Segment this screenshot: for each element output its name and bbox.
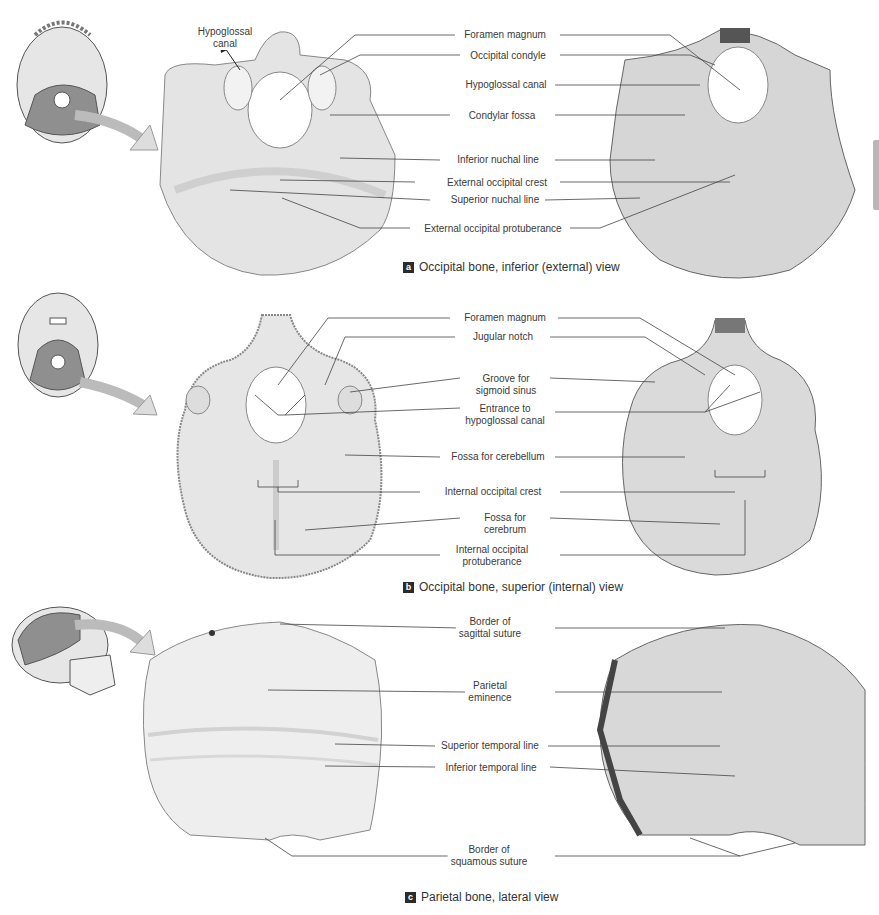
arrow-icon [80,382,148,408]
label-inferior-temporal-line: Inferior temporal line [442,762,539,774]
label-superior-temporal-line: Superior temporal line [438,740,542,752]
label-internal-occipital-crest: Internal occipital crest [442,486,545,498]
panel-b-occipital-superior: Foramen magnum Jugular notch Groove fors… [0,290,879,600]
panel-a-artwork [0,0,879,290]
panel-c-artwork [0,600,879,915]
caption-b: bOccipital bone, superior (internal) vie… [403,580,623,594]
label-foramen-magnum-b: Foramen magnum [461,312,549,324]
label-condylar-fossa: Condylar fossa [466,110,539,122]
label-occipital-condyle: Occipital condyle [467,50,549,62]
label-superior-nuchal-line: Superior nuchal line [448,194,542,206]
panel-c-parietal-lateral: Border ofsagittal suture Parietaleminenc… [0,600,879,915]
label-border-squamous-suture: Border ofsquamous suture [448,844,531,868]
occipital-inferior-illustration [160,32,395,275]
label-groove-sigmoid-sinus: Groove forsigmoid sinus [473,373,540,397]
label-border-sagittal-suture: Border ofsagittal suture [456,616,524,640]
label-entrance-hypoglossal-canal: Entrance tohypoglossal canal [462,403,548,427]
page-edge-tab [873,140,879,210]
caption-marker-b: b [403,582,414,593]
label-inferior-nuchal-line: Inferior nuchal line [454,154,542,166]
label-fossa-cerebrum: Fossa forcerebrum [481,512,529,536]
panel-a-occipital-inferior: Hypoglossalcanal Foramen magnum Occipita… [0,0,879,290]
occipital-inferior-photo [610,28,855,278]
label-hypoglossal-canal: Hypoglossal canal [462,79,549,91]
skull-inferior-thumbnail [17,23,107,144]
caption-a: aOccipital bone, inferior (external) vie… [403,260,620,274]
panel-b-artwork [0,290,879,600]
occipital-superior-photo [623,318,822,575]
label-fossa-cerebellum: Fossa for cerebellum [448,451,547,463]
label-internal-occipital-protuberance: Internal occipitalprotuberance [453,544,531,568]
label-parietal-eminence: Parietaleminence [465,680,514,704]
caption-marker-a: a [403,262,414,273]
occipital-superior-illustration [178,315,382,578]
parietal-photo [600,624,865,845]
caption-c: cParietal bone, lateral view [405,890,558,904]
label-foramen-magnum: Foramen magnum [461,29,549,41]
caption-marker-c: c [405,892,416,903]
label-external-occipital-protuberance: External occipital protuberance [421,223,564,235]
label-external-occipital-crest: External occipital crest [444,177,550,189]
label-hypoglossal-canal-orientation: Hypoglossalcanal [195,26,255,50]
parietal-illustration [143,622,381,840]
label-jugular-notch: Jugular notch [470,331,536,343]
